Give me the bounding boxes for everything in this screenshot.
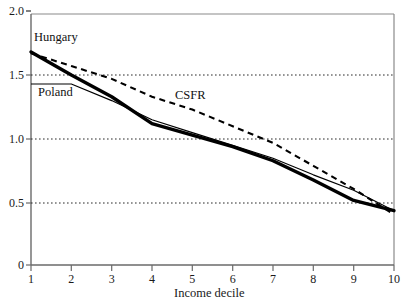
series-label-poland: Poland — [38, 85, 73, 100]
x-axis-ticks — [31, 265, 394, 271]
series-line-hungary — [31, 52, 394, 211]
x-axis-title: Income decile — [174, 286, 244, 300]
x-tick-label-4: 4 — [142, 272, 162, 287]
series-line-csfr — [31, 53, 394, 214]
series-label-csfr: CSFR — [175, 88, 206, 103]
x-tick-label-6: 6 — [223, 272, 243, 287]
y-axis-ticks — [26, 11, 31, 265]
x-tick-label-1: 1 — [21, 272, 41, 287]
x-tick-label-9: 9 — [344, 272, 364, 287]
x-tick-label-10: 10 — [384, 272, 404, 287]
x-tick-label-5: 5 — [182, 272, 202, 287]
x-tick-label-3: 3 — [102, 272, 122, 287]
y-tick-label-2: 2.0 — [0, 4, 24, 19]
y-tick-label-0: 0 — [0, 258, 24, 273]
y-tick-label-0p5: 0.5 — [0, 196, 24, 211]
y-tick-label-1p5: 1.5 — [0, 68, 24, 83]
series-label-hungary: Hungary — [34, 30, 78, 45]
chart-figure: 2.0 1.5 1.0 0.5 0 1 2 3 4 5 6 7 8 9 10 I… — [0, 0, 415, 300]
chart-plot-area — [0, 0, 415, 300]
x-tick-label-2: 2 — [61, 272, 81, 287]
x-tick-label-7: 7 — [263, 272, 283, 287]
x-tick-label-8: 8 — [303, 272, 323, 287]
y-tick-label-1: 1.0 — [0, 132, 24, 147]
